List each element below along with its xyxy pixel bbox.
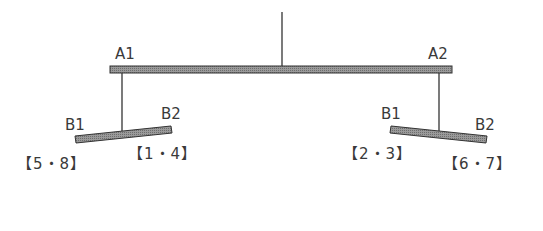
label-left-b1: B1 — [65, 118, 85, 133]
group-right-b2: 【6・7】 — [443, 157, 512, 172]
group-right-b1: 【2・3】 — [343, 147, 412, 162]
top-beam — [110, 66, 452, 73]
label-left-b2: B2 — [161, 107, 181, 122]
group-left-b1: 【5・8】 — [17, 157, 86, 172]
left-beam — [75, 126, 172, 143]
label-a2: A2 — [428, 47, 448, 62]
group-left-b2: 【1・4】 — [128, 147, 197, 162]
label-right-b2: B2 — [475, 118, 495, 133]
label-a1: A1 — [115, 47, 135, 62]
label-right-b1: B1 — [381, 107, 401, 122]
